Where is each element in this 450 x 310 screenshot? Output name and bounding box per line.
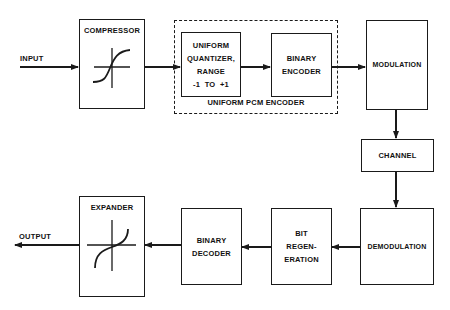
compressor-block: COMPRESSOR [79, 19, 145, 109]
binary-decoder-line-1: BINARY [197, 234, 227, 247]
quantizer-line-2: QUANTIZER, [187, 52, 235, 65]
modulation-block: MODULATION [366, 20, 428, 110]
expander-block: EXPANDER [79, 196, 145, 297]
bit-regen-line-1: BIT [295, 227, 308, 240]
uniform-quantizer-block: UNIFORM QUANTIZER, RANGE -1 TO +1 [181, 32, 241, 97]
binary-decoder-line-2: DECODER [192, 247, 231, 260]
uniform-pcm-encoder-label: UNIFORM PCM ENCODER [174, 97, 338, 109]
bit-regen-line-2: REGEN- [286, 240, 316, 253]
channel-block: CHANNEL [361, 139, 434, 172]
bit-regeneration-block: BIT REGEN- ERATION [271, 208, 332, 285]
binary-decoder-block: BINARY DECODER [181, 208, 242, 285]
input-label: INPUT [20, 53, 44, 65]
compressor-label: COMPRESSOR [84, 25, 140, 37]
quantizer-line-3: RANGE [197, 65, 225, 78]
binary-encoder-line-1: BINARY [287, 52, 317, 65]
quantizer-line-1: UNIFORM [193, 39, 229, 52]
quantizer-line-4: -1 TO +1 [193, 78, 229, 91]
demodulation-block: DEMODULATION [360, 208, 434, 285]
modulation-label: MODULATION [373, 59, 422, 71]
binary-encoder-block: BINARY ENCODER [271, 33, 332, 97]
output-label: OUTPUT [19, 231, 51, 243]
expander-label: EXPANDER [91, 202, 134, 214]
binary-encoder-line-2: ENCODER [282, 65, 321, 78]
bit-regen-line-3: ERATION [284, 253, 319, 266]
channel-label: CHANNEL [378, 150, 416, 162]
demodulation-label: DEMODULATION [367, 241, 426, 253]
